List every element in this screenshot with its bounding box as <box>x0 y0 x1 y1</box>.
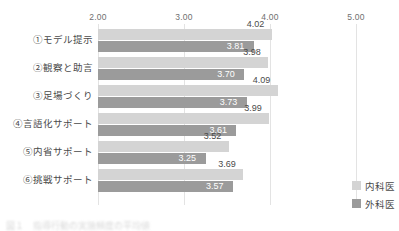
bar-2-0[interactable] <box>98 85 278 96</box>
bar-chart: 2.00 3.00 4.00 5.00 ①モデル提示 ②観察と助言 ③足場づくり… <box>0 0 399 231</box>
bar-value-label-5-0: 3.69 <box>218 159 236 170</box>
category-label-3: ④言語化サポート <box>13 119 93 129</box>
bar-value-label-3-0: 3.99 <box>244 103 262 114</box>
category-label-0: ①モデル提示 <box>33 35 93 45</box>
bar-5-0[interactable] <box>98 169 243 180</box>
category-label-5: ⑥挑戦サポート <box>23 175 93 185</box>
bar-value-label-4-1: 3.25 <box>179 153 197 164</box>
bars-layer: 4.023.813.983.704.093.733.993.613.523.25… <box>98 24 356 205</box>
bar-value-label-4-0: 3.52 <box>204 131 222 142</box>
bar-1-0[interactable] <box>98 57 268 68</box>
legend: 内科医 外科医 <box>352 178 395 214</box>
legend-item-1[interactable]: 外科医 <box>352 196 395 211</box>
bar-value-label-1-1: 3.70 <box>217 69 235 80</box>
x-axis-ticks: 2.00 3.00 4.00 5.00 <box>98 0 356 24</box>
bar-value-label-1-0: 3.98 <box>243 47 261 58</box>
category-label-2: ③足場づくり <box>33 91 93 101</box>
bar-value-label-0-0: 4.02 <box>247 19 265 30</box>
category-label-1: ②観察と助言 <box>33 63 93 73</box>
bar-3-0[interactable] <box>98 113 269 124</box>
category-axis: ①モデル提示 ②観察と助言 ③足場づくり ④言語化サポート ⑤内省サポート ⑥挑… <box>0 24 93 205</box>
category-label-4: ⑤内省サポート <box>23 147 93 157</box>
legend-swatch-icon-0 <box>352 181 361 190</box>
figure-caption: 図１ 指導行動の実施頻度の平均値 <box>6 219 150 231</box>
bar-0-0[interactable] <box>98 29 272 40</box>
bar-value-label-0-1: 3.81 <box>227 41 245 52</box>
legend-label-0: 内科医 <box>365 179 395 193</box>
tick-label-1: 3.00 <box>175 12 192 22</box>
tick-label-0: 2.00 <box>89 12 106 22</box>
tick-label-3: 5.00 <box>347 12 364 22</box>
legend-swatch-icon-1 <box>352 199 361 208</box>
legend-item-0[interactable]: 内科医 <box>352 178 395 193</box>
legend-label-1: 外科医 <box>365 197 395 211</box>
bar-value-label-5-1: 3.57 <box>206 181 224 192</box>
bar-value-label-2-1: 3.73 <box>220 97 238 108</box>
bar-4-0[interactable] <box>98 141 229 152</box>
bar-value-label-2-0: 4.09 <box>253 75 271 86</box>
